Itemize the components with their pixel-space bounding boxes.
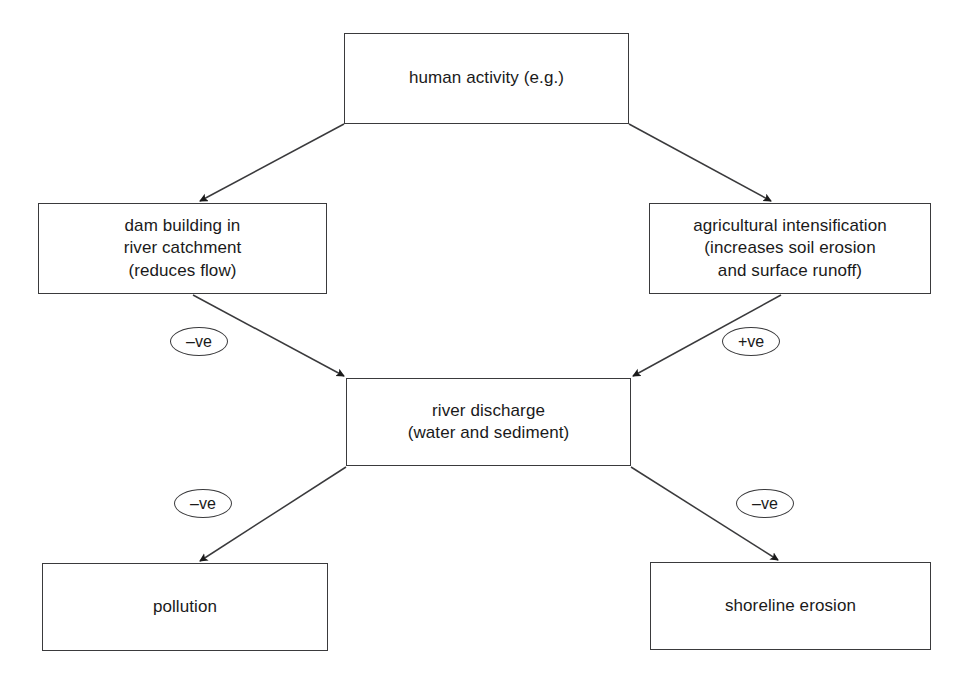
edge-sign-badge-discharge-to-shoreline: –ve [736, 489, 794, 518]
node-pollution-label: pollution [147, 596, 223, 618]
node-human-activity-label: human activity (e.g.) [403, 67, 570, 89]
edge-sign-badge-agriculture-to-discharge: +ve [722, 327, 780, 356]
connector-human-to-agriculture [629, 124, 771, 201]
edge-sign-badge-label: –ve [190, 496, 216, 512]
edge-sign-badge-label: –ve [186, 334, 212, 350]
node-river-discharge[interactable]: river discharge (water and sediment) [346, 378, 631, 466]
node-pollution[interactable]: pollution [42, 563, 328, 651]
node-river-discharge-label: river discharge (water and sediment) [402, 400, 576, 445]
flow-diagram-canvas: human activity (e.g.) dam building in ri… [0, 0, 979, 679]
node-dam-building-label: dam building in river catchment (reduces… [118, 215, 248, 282]
node-human-activity[interactable]: human activity (e.g.) [344, 33, 629, 124]
connector-human-to-dam [200, 124, 344, 201]
node-agricultural-intensification-label: agricultural intensification (increases … [687, 215, 893, 282]
edge-sign-badge-discharge-to-pollution: –ve [174, 489, 232, 518]
edge-sign-badge-label: –ve [752, 496, 778, 512]
node-dam-building[interactable]: dam building in river catchment (reduces… [38, 203, 327, 294]
edge-sign-badge-dam-to-discharge: –ve [170, 327, 228, 356]
edge-sign-badge-label: +ve [738, 334, 764, 350]
node-shoreline-erosion-label: shoreline erosion [719, 595, 862, 617]
node-shoreline-erosion[interactable]: shoreline erosion [650, 562, 931, 650]
node-agricultural-intensification[interactable]: agricultural intensification (increases … [649, 203, 931, 294]
